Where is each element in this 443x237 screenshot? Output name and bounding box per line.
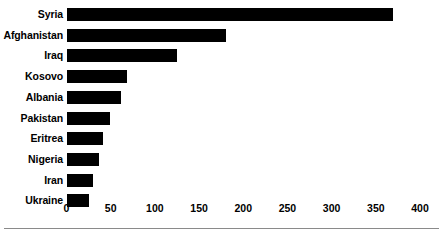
category-label: Albania bbox=[0, 91, 63, 104]
bar-track bbox=[67, 132, 103, 145]
category-label: Iran bbox=[0, 174, 63, 187]
bar-row: Nigeria bbox=[0, 153, 443, 166]
plot-area: SyriaAfghanistanIraqKosovoAlbaniaPakista… bbox=[0, 0, 443, 200]
bar-track bbox=[67, 70, 127, 83]
bar-row: Pakistan bbox=[0, 112, 443, 125]
bar bbox=[67, 174, 94, 187]
bar-track bbox=[67, 8, 394, 21]
bar bbox=[67, 29, 226, 42]
bar bbox=[67, 132, 103, 145]
bar-row: Albania bbox=[0, 91, 443, 104]
category-label: Syria bbox=[0, 8, 63, 21]
bar-track bbox=[67, 29, 226, 42]
bar bbox=[67, 49, 177, 62]
bar-track bbox=[67, 91, 122, 104]
bar-track bbox=[67, 153, 100, 166]
x-tick-label: 0 bbox=[64, 202, 70, 214]
x-tick-label: 300 bbox=[323, 202, 341, 214]
bar-track bbox=[67, 49, 177, 62]
bar-row: Iran bbox=[0, 174, 443, 187]
bar bbox=[67, 70, 127, 83]
x-tick-label: 200 bbox=[234, 202, 252, 214]
x-tick-label: 150 bbox=[190, 202, 208, 214]
category-label: Afghanistan bbox=[0, 29, 63, 42]
bar-row: Afghanistan bbox=[0, 29, 443, 42]
bar-row: Kosovo bbox=[0, 70, 443, 83]
bar-row: Iraq bbox=[0, 49, 443, 62]
bar-track bbox=[67, 112, 110, 125]
bar-chart-figure: SyriaAfghanistanIraqKosovoAlbaniaPakista… bbox=[0, 0, 443, 237]
x-tick-label: 400 bbox=[411, 202, 429, 214]
bar-row: Syria bbox=[0, 8, 443, 21]
bar bbox=[67, 91, 122, 104]
x-tick-label: 350 bbox=[367, 202, 385, 214]
category-label: Nigeria bbox=[0, 153, 63, 166]
category-label: Pakistan bbox=[0, 112, 63, 125]
x-tick-label: 50 bbox=[105, 202, 117, 214]
category-label: Iraq bbox=[0, 49, 63, 62]
bar bbox=[67, 153, 100, 166]
bottom-divider-rule bbox=[4, 228, 439, 229]
x-tick-label: 250 bbox=[279, 202, 297, 214]
bar-row: Eritrea bbox=[0, 132, 443, 145]
category-label: Eritrea bbox=[0, 132, 63, 145]
x-axis: 050100150200250300350400 bbox=[0, 202, 443, 220]
x-tick-label: 100 bbox=[146, 202, 164, 214]
bar bbox=[67, 112, 110, 125]
bar bbox=[67, 8, 394, 21]
bar-track bbox=[67, 174, 94, 187]
category-label: Kosovo bbox=[0, 70, 63, 83]
